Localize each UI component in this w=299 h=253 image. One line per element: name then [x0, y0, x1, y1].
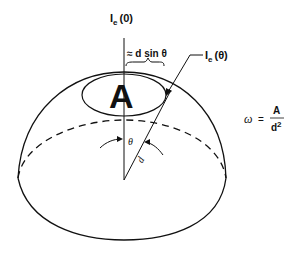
solid-angle-formula: ω = A d2 [244, 105, 284, 133]
hemisphere-base-front [18, 178, 226, 240]
formula-omega: ω [244, 112, 252, 126]
ie-theta-label: Ie(θ) [205, 49, 228, 64]
hemisphere-diagram: Ie(0) ≈ d sin θ Ie(θ) A θ d ω = A d2 [0, 0, 299, 253]
ie-theta-leader [168, 55, 203, 92]
formula-numerator: A [273, 105, 280, 116]
approx-label: ≈ d sin θ [127, 48, 167, 59]
theta-label: θ [128, 136, 133, 147]
ie0-label: Ie(0) [110, 12, 133, 27]
formula-denominator: d2 [271, 120, 282, 133]
area-letter: A [109, 77, 134, 115]
approx-brace [126, 58, 164, 66]
formula-equals: = [258, 114, 264, 125]
distance-label: d [134, 154, 147, 164]
theta-arrowhead-left [117, 136, 123, 142]
hemisphere-base-back [18, 120, 226, 178]
